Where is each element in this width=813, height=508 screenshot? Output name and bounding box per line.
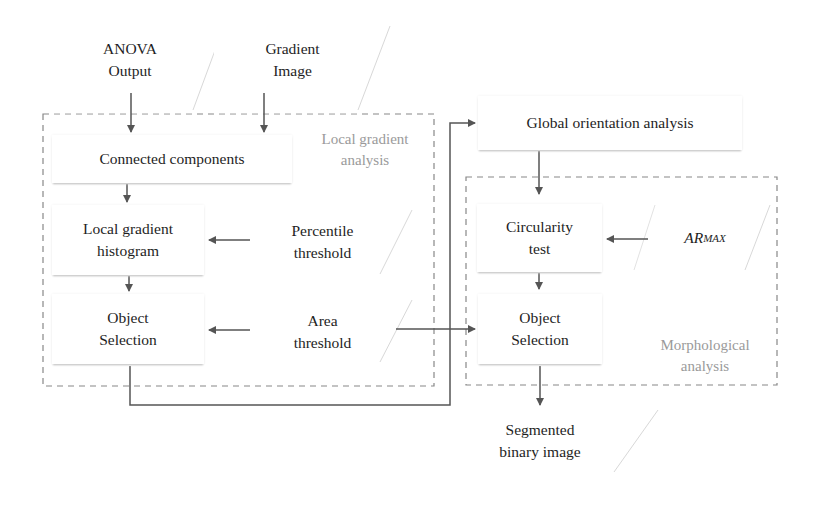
- object-selection-local-process: Object Selection: [52, 294, 204, 364]
- percentile-threshold-input: Percentile threshold: [255, 212, 390, 272]
- area-threshold-input: Area threshold: [255, 302, 390, 362]
- global-orientation-analysis-process: Global orientation analysis: [478, 96, 742, 150]
- gradient-image-input: Gradient Image: [225, 30, 360, 90]
- local-gradient-analysis-label: Local gradient analysis: [300, 129, 430, 171]
- object-selection-morph-process: Object Selection: [478, 294, 602, 364]
- ar-max-sub: MAX: [703, 227, 726, 249]
- anova-output-input: ANOVA Output: [60, 30, 200, 90]
- ar-max-input: ARMAX: [660, 208, 750, 268]
- local-gradient-histogram-process: Local gradient histogram: [52, 205, 204, 275]
- morphological-analysis-label: Morphological analysis: [640, 335, 770, 377]
- circularity-test-process: Circularity test: [477, 204, 602, 272]
- ar-max-base: AR: [684, 227, 703, 249]
- segmented-binary-image-output: Segmented binary image: [470, 412, 610, 470]
- connected-components-process: Connected components: [52, 135, 292, 183]
